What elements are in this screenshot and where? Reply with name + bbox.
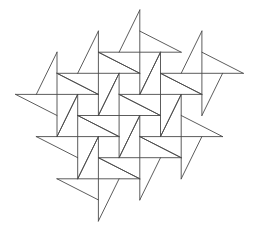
triangle-top-edge: [119, 116, 140, 158]
triangle-left-edge: [16, 94, 57, 115]
triangle-top-edge: [57, 94, 78, 136]
triangle-bottom-edge: [98, 179, 119, 221]
triangle-top-edge: [161, 94, 182, 136]
triangle-right-edge: [202, 52, 243, 73]
triangle-top-edge: [140, 52, 161, 94]
triangle-right-edge: [57, 73, 98, 94]
pinwheel: [161, 31, 244, 115]
triangle-right-edge: [140, 137, 181, 158]
triangle-left-edge: [57, 179, 98, 200]
pinwheel-group: [16, 10, 244, 221]
pinwheel: [57, 137, 140, 221]
triangle-top-edge: [119, 10, 140, 52]
triangle-right-edge: [78, 116, 119, 137]
triangle-top-edge: [98, 73, 119, 115]
pinwheel: [140, 94, 223, 178]
pinwheel: [36, 94, 119, 178]
triangle-left-edge: [36, 137, 77, 158]
triangle-bottom-edge: [181, 137, 202, 179]
triangle-right-edge: [98, 158, 139, 179]
pinwheel-tiling-diagram: [0, 0, 257, 237]
triangle-top-edge: [181, 31, 202, 73]
pinwheel: [57, 31, 140, 115]
triangle-right-edge: [181, 116, 222, 137]
pinwheel: [119, 52, 202, 136]
pinwheel: [16, 52, 99, 136]
triangle-top-edge: [78, 31, 99, 73]
triangle-bottom-edge: [202, 73, 223, 115]
triangle-right-edge: [119, 94, 160, 115]
triangle-right-edge: [140, 31, 181, 52]
triangle-right-edge: [161, 73, 202, 94]
pinwheel: [98, 10, 181, 94]
triangle-right-edge: [98, 52, 139, 73]
triangle-top-edge: [36, 52, 57, 94]
pinwheel: [78, 73, 161, 157]
triangle-top-edge: [78, 137, 99, 179]
pinwheel: [98, 116, 181, 200]
triangle-bottom-edge: [140, 158, 161, 200]
